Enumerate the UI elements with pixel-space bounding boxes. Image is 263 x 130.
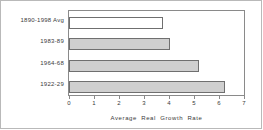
x-tick-label-6: 6 [212,99,226,107]
plot-area [68,10,245,96]
x-tick-label-5: 5 [187,99,201,107]
x-tick-label-4: 4 [162,99,176,107]
x-tick-label-2: 2 [112,99,126,107]
x-tick-label-1: 1 [87,99,101,107]
bar-chart-figure: 1890-1998 Avg 1983-89 1964-68 1922-29 01… [0,0,263,130]
bar-1922-29 [69,81,225,93]
category-label-2: 1964-68 [40,60,64,67]
x-axis-title: Average Real Growth Rate [68,114,245,122]
bar-1964-68 [69,60,199,72]
x-tick-label-7: 7 [237,99,251,107]
x-tick-label-0: 0 [62,99,76,107]
category-label-1: 1983-89 [40,38,64,45]
x-tick-label-3: 3 [137,99,151,107]
category-label-3: 1922-29 [40,81,64,88]
category-label-0: 1890-1998 Avg [20,17,64,24]
bar-1890-1998-avg [69,17,163,29]
bar-1983-89 [69,38,170,50]
